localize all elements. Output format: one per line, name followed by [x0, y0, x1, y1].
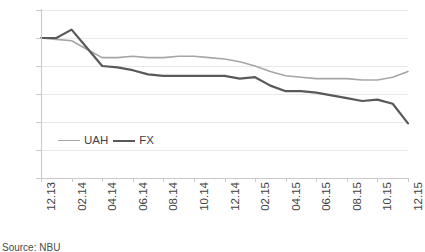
x-axis-tick-label: 08.15 — [352, 182, 364, 211]
y-axis-line — [41, 9, 42, 179]
x-axis-tick-label: 04.15 — [291, 182, 303, 211]
series-layer — [41, 10, 408, 178]
x-axis-tick-mark — [102, 178, 103, 182]
x-axis-tick-label: 06.15 — [321, 182, 333, 211]
y-axis-tick-mark — [36, 122, 41, 123]
legend-swatch-uah — [58, 140, 80, 141]
x-axis-tick-mark — [72, 178, 73, 182]
legend-swatch-fx — [113, 140, 135, 142]
x-axis-tick-label: 02.15 — [260, 182, 272, 211]
x-axis-tick-mark — [286, 178, 287, 182]
x-axis-tick-mark — [255, 178, 256, 182]
plot-area — [41, 10, 408, 178]
x-axis-tick-label: 06.14 — [138, 182, 150, 211]
y-axis-tick-mark — [36, 94, 41, 95]
x-axis-tick-label: 12.15 — [413, 182, 425, 211]
series-line-fx — [41, 30, 408, 124]
x-axis-tick-mark — [316, 178, 317, 182]
source-note: Source: NBU — [2, 242, 60, 252]
x-axis-tick-label: 10.15 — [382, 182, 394, 211]
legend-item-fx[interactable]: FX — [113, 135, 154, 147]
x-axis-tick-mark — [408, 178, 409, 182]
x-axis-tick-label: 12.13 — [46, 182, 58, 211]
x-axis-tick-mark — [133, 178, 134, 182]
legend-label-uah: UAH — [84, 135, 108, 147]
x-axis-tick-mark — [225, 178, 226, 182]
y-axis-tick-mark — [36, 38, 41, 39]
x-axis-tick-mark — [194, 178, 195, 182]
x-axis-tick-mark — [163, 178, 164, 182]
x-axis-tick-mark — [347, 178, 348, 182]
chart-legend: UAH FX — [58, 135, 154, 147]
x-axis-tick-mark — [41, 178, 42, 182]
x-axis-tick-label: 02.14 — [77, 182, 89, 211]
x-axis-tick-label: 12.14 — [230, 182, 242, 211]
legend-item-uah[interactable]: UAH — [58, 135, 108, 147]
x-axis-tick-mark — [377, 178, 378, 182]
x-axis-tick-label: 08.14 — [168, 182, 180, 211]
x-axis-tick-label: 10.14 — [199, 182, 211, 211]
legend-label-fx: FX — [139, 135, 154, 147]
x-axis-tick-label: 04.14 — [107, 182, 119, 211]
y-axis-tick-mark — [36, 10, 41, 11]
y-axis-tick-mark — [36, 66, 41, 67]
y-axis-tick-mark — [36, 150, 41, 151]
